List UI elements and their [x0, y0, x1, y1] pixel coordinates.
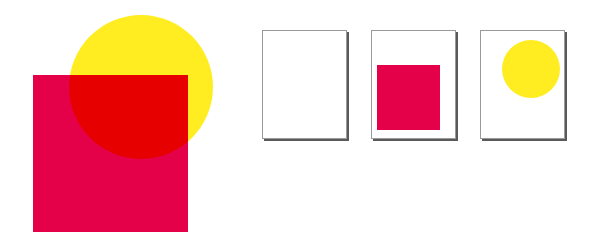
page-magenta-square — [377, 65, 440, 130]
page-circle — [480, 30, 565, 139]
page-square — [371, 30, 456, 139]
page-blank — [262, 30, 347, 139]
page-yellow-circle — [502, 40, 560, 98]
